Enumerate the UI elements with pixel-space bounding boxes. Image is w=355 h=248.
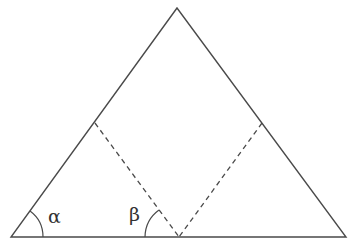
dashed-line-right (179, 123, 262, 237)
beta-label: β (129, 203, 140, 225)
alpha-label: α (48, 205, 61, 227)
angle-arc-beta (145, 210, 159, 237)
outer-triangle (11, 8, 346, 237)
angle-arc-alpha (30, 211, 43, 237)
triangle-diagram: α β (0, 0, 355, 248)
